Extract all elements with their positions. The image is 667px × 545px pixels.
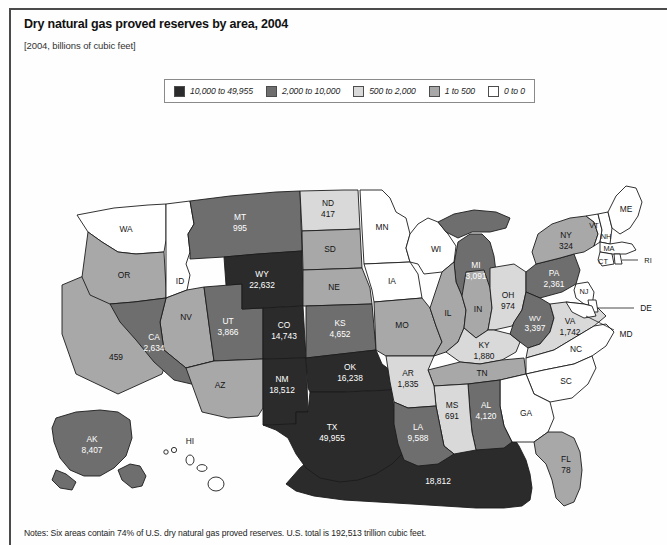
page-subtitle: [2004, billions of cubic feet] <box>24 40 136 51</box>
label-WV: WV <box>529 314 541 323</box>
value-NY: 324 <box>559 241 573 251</box>
value-CO: 14,743 <box>271 331 297 341</box>
label-ND: ND <box>322 198 334 208</box>
label-CA: CA <box>148 332 160 342</box>
label-WY: WY <box>255 269 269 279</box>
area-AK-aleutians[interactable] <box>52 470 76 490</box>
legend-item-0: 10,000 to 49,955 <box>174 86 253 97</box>
area-HI[interactable] <box>164 447 224 491</box>
label-NJ: NJ <box>579 287 588 296</box>
page-frame-top <box>9 8 667 10</box>
value-AL: 4,120 <box>476 411 497 421</box>
label-TN: TN <box>476 368 487 378</box>
legend-swatch-1 <box>266 86 277 97</box>
label-OK: OK <box>344 362 357 372</box>
legend-label-4: 0 to 0 <box>504 86 525 96</box>
label-MO: MO <box>395 320 409 330</box>
value-UT: 3,866 <box>218 327 239 337</box>
value-FL: 78 <box>561 465 571 475</box>
value-OK: 16,238 <box>337 373 363 383</box>
value-LA: 9,588 <box>408 433 429 443</box>
label-TX: TX <box>327 422 338 432</box>
label-CO: CO <box>278 320 291 330</box>
page-title: Dry natural gas proved reserves by area,… <box>24 17 288 31</box>
label-ID: ID <box>176 276 184 286</box>
value-VA: 1,742 <box>560 327 581 337</box>
value-MS: 691 <box>445 411 459 421</box>
label-MS: MS <box>446 400 459 410</box>
label-NC: NC <box>570 344 582 354</box>
value-CA: 2,634 <box>144 343 165 353</box>
label-MN: MN <box>375 222 388 232</box>
label-VA: VA <box>565 316 576 326</box>
label-AR: AR <box>402 368 414 378</box>
value-OH: 974 <box>501 301 515 311</box>
legend-item-4: 0 to 0 <box>488 86 525 97</box>
figure-page: Dry natural gas proved reserves by area,… <box>0 0 667 545</box>
label-MI: MI <box>471 260 480 270</box>
label-AZ: AZ <box>215 380 226 390</box>
value-pacific-offshore: 459 <box>109 352 123 362</box>
value-WV: 3,397 <box>525 323 546 333</box>
legend-swatch-2 <box>353 86 364 97</box>
value-PA: 2,361 <box>544 279 565 289</box>
label-NE: NE <box>328 282 340 292</box>
label-WA: WA <box>119 224 133 234</box>
label-GA: GA <box>520 408 533 418</box>
legend-label-3: 1 to 500 <box>445 86 475 96</box>
label-WI: WI <box>431 244 441 254</box>
area-AK-panhandle[interactable] <box>118 464 146 488</box>
value-KY: 1,880 <box>474 351 495 361</box>
label-PA: PA <box>549 268 560 278</box>
legend-label-2: 500 to 2,000 <box>369 86 416 96</box>
label-MD: MD <box>619 329 632 339</box>
legend-label-1: 2,000 to 10,000 <box>282 86 340 96</box>
label-UT: UT <box>222 316 233 326</box>
value-NM: 18,512 <box>269 385 295 395</box>
value-AR: 1,835 <box>398 379 419 389</box>
label-CT: CT <box>598 257 608 266</box>
label-RI: RI <box>644 256 651 265</box>
label-AL: AL <box>481 400 492 410</box>
value-gulf-offshore: 18,812 <box>425 476 451 486</box>
label-IL: IL <box>445 308 452 318</box>
area-FL[interactable] <box>534 432 582 506</box>
label-IN: IN <box>474 304 482 314</box>
label-OH: OH <box>502 290 515 300</box>
label-OR: OR <box>118 270 131 280</box>
label-VT: VT <box>589 221 599 230</box>
value-MT: 995 <box>233 223 247 233</box>
label-IA: IA <box>388 276 396 286</box>
value-KS: 4,652 <box>330 329 351 339</box>
label-NM: NM <box>275 374 288 384</box>
label-LA: LA <box>413 422 424 432</box>
label-ME: ME <box>620 204 633 214</box>
label-NH: NH <box>601 232 612 241</box>
page-frame-left <box>9 8 11 545</box>
label-HI: HI <box>186 436 194 446</box>
value-AK: 8,407 <box>82 445 103 455</box>
area-NY[interactable] <box>532 216 598 264</box>
value-TX: 49,955 <box>319 433 345 443</box>
legend-swatch-4 <box>488 86 499 97</box>
value-ND: 417 <box>321 209 335 219</box>
label-SC: SC <box>560 376 572 386</box>
choropleth-map: WA OR ID MT 995 ND 417 SD MN WI IA NE WY… <box>14 112 659 512</box>
label-KS: KS <box>334 318 346 328</box>
area-RI[interactable] <box>614 254 622 264</box>
value-WY: 22,632 <box>249 280 275 290</box>
legend-item-2: 500 to 2,000 <box>353 86 416 97</box>
label-MA: MA <box>603 244 614 253</box>
legend-label-0: 10,000 to 49,955 <box>190 86 253 96</box>
label-DE: DE <box>640 303 652 313</box>
label-MT: MT <box>234 212 246 222</box>
figure-notes: Notes: Six areas contain 74% of U.S. dry… <box>24 528 426 538</box>
value-MI: 3,091 <box>466 271 487 281</box>
label-KY: KY <box>478 340 490 350</box>
label-AK: AK <box>86 434 98 444</box>
label-NY: NY <box>560 230 572 240</box>
map-legend: 10,000 to 49,955 2,000 to 10,000 500 to … <box>164 79 535 103</box>
label-FL: FL <box>561 454 571 464</box>
legend-swatch-3 <box>429 86 440 97</box>
label-NV: NV <box>180 312 192 322</box>
